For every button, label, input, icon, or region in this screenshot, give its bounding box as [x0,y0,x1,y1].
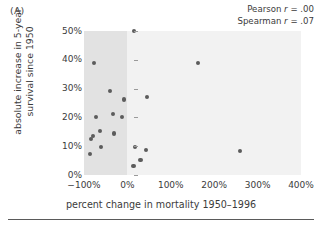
pearson-value: = .00 [288,4,314,14]
y-tick-mark [134,89,138,90]
data-point [112,131,116,135]
y-tick-mark [134,117,138,118]
y-tick-mark [134,175,138,176]
data-point [145,95,149,99]
data-point [238,149,242,153]
spearman-annotation: Spearman r = .07 [237,16,314,28]
pearson-label: Pearson [247,4,284,14]
y-axis-label-line2: survival since 1950 [23,7,35,137]
y-tick-mark [134,146,138,147]
y-tick-label: 10% [54,142,82,151]
spearman-label: Spearman [237,16,284,26]
plot-area [84,31,301,175]
y-tick-label: 40% [54,55,82,64]
data-point [88,152,92,156]
data-point [122,97,126,101]
bottom-divider-rule [8,219,314,220]
data-point [108,89,112,93]
data-point [144,148,148,152]
data-point [99,145,103,149]
y-tick-label: 0% [54,171,82,180]
y-axis-label: absolute increase in 5-year survival sin… [12,7,35,137]
correlation-annotation: Pearson r = .00 Spearman r = .07 [237,4,314,27]
x-axis-label: percent change in mortality 1950–1996 [0,199,322,210]
data-point [111,112,115,116]
data-point [131,164,135,168]
x-tick-label: 400% [271,180,322,190]
scatter-points-layer [84,31,301,175]
data-point [120,115,124,119]
data-point [92,61,96,65]
y-tick-label: 30% [54,84,82,93]
y-axis-label-line1: absolute increase in 5-year [12,7,24,137]
pearson-annotation: Pearson r = .00 [237,4,314,16]
y-tick-label: 50% [54,27,82,36]
data-point [138,158,142,162]
figure-panel-a: (A) Pearson r = .00 Spearman r = .07 0%1… [0,0,322,225]
data-point [94,115,98,119]
y-tick-mark [134,60,138,61]
spearman-value: = .07 [288,16,314,26]
y-tick-mark [134,31,138,32]
data-point [196,61,200,65]
x-axis-ticklabels: −100%0%100%200%300%400% [0,180,322,194]
y-tick-label: 20% [54,113,82,122]
data-point [98,129,102,133]
data-point [91,134,95,138]
